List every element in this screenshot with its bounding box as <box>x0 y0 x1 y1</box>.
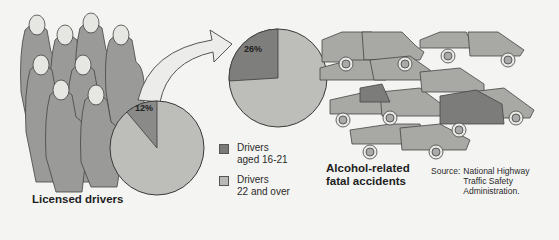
source-line3: Administration. <box>463 186 529 196</box>
legend-label-line1: Drivers <box>237 174 290 186</box>
legend-swatch-young <box>219 144 229 154</box>
pie-label-12: 12% <box>135 103 153 113</box>
cars-illustration <box>320 32 534 159</box>
pie-licensed-drivers <box>110 101 204 195</box>
legend-label-line2: 22 and over <box>237 186 290 198</box>
source-label: Source: <box>431 166 460 196</box>
legend-label-line1: Drivers <box>237 142 288 154</box>
source-note: Source: National Highway Traffic Safety … <box>431 166 529 196</box>
legend-item-young: Drivers aged 16-21 <box>219 142 290 166</box>
arrow-icon <box>138 30 232 102</box>
source-line1: National Highway <box>463 166 529 176</box>
legend: Drivers aged 16-21 Drivers 22 and over <box>219 142 290 198</box>
caption-licensed-drivers: Licensed drivers <box>32 193 123 206</box>
legend-item-older: Drivers 22 and over <box>219 174 290 198</box>
legend-swatch-older <box>219 176 229 186</box>
source-line2: Traffic Safety <box>463 176 529 186</box>
legend-label-line2: aged 16-21 <box>237 154 288 166</box>
caption-line2: fatal accidents <box>326 175 410 188</box>
pie-label-26: 26% <box>244 44 262 54</box>
caption-fatal-accidents: Alcohol-related fatal accidents <box>326 162 410 188</box>
caption-line1: Alcohol-related <box>326 162 410 175</box>
